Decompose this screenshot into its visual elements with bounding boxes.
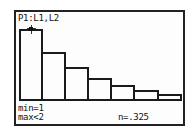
histogram-bar [110,85,135,101]
histogram-bar [87,78,112,101]
trace-n: n=.325 [118,113,149,122]
histogram-bar [41,52,66,101]
histogram-bar [157,94,182,101]
plot-label: P1:L1,L2 [18,14,59,23]
histogram-bar [64,67,89,101]
histogram-bar [19,29,43,101]
histogram-bar [133,90,159,101]
trace-max: max<2 [18,113,44,122]
trace-cursor-icon [27,25,34,32]
